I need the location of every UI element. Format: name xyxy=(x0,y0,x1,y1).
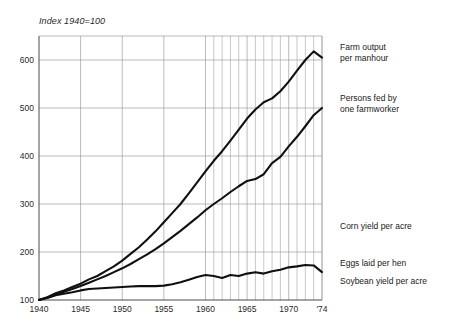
series-label-eggs-laid: Eggs laid per hen xyxy=(340,258,406,268)
series-label-farm-output-line1: Farm output xyxy=(340,42,386,52)
chart-container: Index 1940=100 100200300400500600 194019… xyxy=(0,0,472,321)
x-gridlines-major xyxy=(81,36,289,300)
y-gridlines xyxy=(39,60,322,252)
x-tick-1950: 1950 xyxy=(113,304,132,314)
series-label-farm-output-line2: per manhour xyxy=(340,53,388,63)
series-label-corn-yield: Corn yield per acre xyxy=(340,221,412,231)
series-label-soybean-yield: Soybean yield per acre xyxy=(340,276,427,286)
chart-title: Index 1940=100 xyxy=(39,16,105,26)
x-tick-1940: 1940 xyxy=(30,304,49,314)
y-tick-200: 200 xyxy=(20,247,34,257)
y-tick-300: 300 xyxy=(20,199,34,209)
series-label-farm-output: Farm output per manhour xyxy=(340,42,388,63)
x-tick-1955: 1955 xyxy=(154,304,173,314)
y-tick-500: 500 xyxy=(20,103,34,113)
y-tick-600: 600 xyxy=(20,55,34,65)
y-tick-labels: 100200300400500600 xyxy=(20,55,34,305)
x-tick-1970: 1970 xyxy=(279,304,298,314)
x-tick-labels: 1940194519501955196019651970'74 xyxy=(30,304,328,314)
series-label-persons-fed-line1: Persons fed by xyxy=(340,93,397,103)
x-tick-1945: 1945 xyxy=(71,304,90,314)
x-tick-1974: '74 xyxy=(316,304,327,314)
series-lines xyxy=(39,51,322,300)
y-tick-400: 400 xyxy=(20,151,34,161)
x-tick-1965: 1965 xyxy=(238,304,257,314)
line-chart: Index 1940=100 100200300400500600 194019… xyxy=(0,0,472,321)
series-label-persons-fed: Persons fed by one farmworker xyxy=(340,93,399,114)
series-line-0 xyxy=(39,51,322,300)
series-label-persons-fed-line2: one farmworker xyxy=(340,104,399,114)
x-tick-1960: 1960 xyxy=(196,304,215,314)
